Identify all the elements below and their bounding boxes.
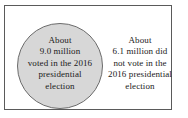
did-not-vote-line-2: 6.1 million did [103, 46, 177, 57]
did-not-vote-label: About 6.1 million did not vote in the 20… [103, 35, 177, 92]
did-not-vote-line-1: About [103, 35, 177, 46]
did-not-vote-line-4: 2016 presidential [103, 69, 177, 80]
venn-diagram-figure: About 9.0 million voted in the 2016 pres… [0, 0, 188, 118]
voted-label-line-2: 9.0 million [13, 46, 107, 57]
did-not-vote-line-3: not vote in the [103, 58, 177, 69]
voted-circle-label: About 9.0 million voted in the 2016 pres… [13, 35, 107, 92]
diagram-frame: About 9.0 million voted in the 2016 pres… [4, 5, 172, 110]
voted-label-line-5: election [13, 81, 107, 92]
voted-label-line-3: voted in the 2016 [13, 58, 107, 69]
did-not-vote-line-5: election [103, 81, 177, 92]
voted-label-line-1: About [13, 35, 107, 46]
voted-label-line-4: presidential [13, 69, 107, 80]
